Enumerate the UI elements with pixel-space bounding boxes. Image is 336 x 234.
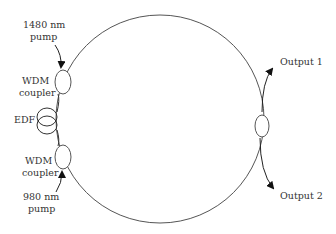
pump-980-label-1: 980 nm	[23, 191, 59, 202]
pump-1480-label-1: 1480 nm	[23, 19, 65, 30]
wdm-coupler-bottom	[55, 145, 71, 169]
pump-980-label-2: pump	[28, 203, 55, 214]
fiber-ring	[56, 15, 264, 223]
wdm-top-label-2: coupler	[19, 87, 56, 98]
edf-label: EDF	[14, 114, 36, 125]
wdm-coupler-top	[55, 70, 71, 94]
wdm-top-label-1: WDM	[22, 75, 49, 86]
output-2-label: Output 2	[280, 190, 323, 201]
output-2-arrow	[260, 138, 273, 188]
edf-coil	[37, 94, 59, 146]
ring-laser-diagram: 1480 nm pump WDM coupler EDF WDM coupler…	[0, 0, 336, 234]
wdm-bottom-label-1: WDM	[25, 155, 52, 166]
output-coupler	[255, 115, 269, 137]
output-1-label: Output 1	[280, 56, 323, 67]
pump-1480-arrow	[55, 45, 61, 67]
pump-1480-label-2: pump	[30, 31, 57, 42]
wdm-bottom-label-2: coupler	[22, 167, 59, 178]
